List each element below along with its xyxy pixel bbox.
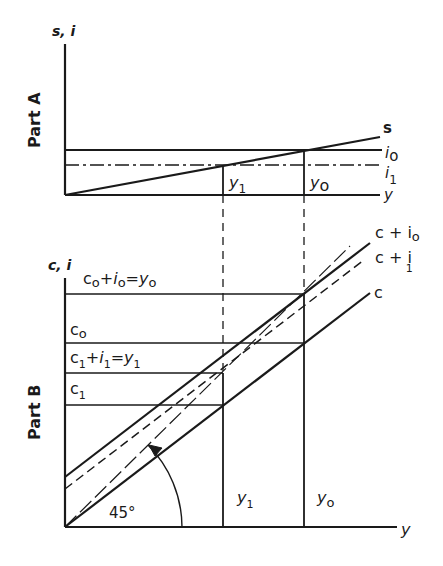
part-b-y-axis-label: c, i	[48, 257, 71, 273]
c-curve-label: c	[374, 283, 383, 302]
part-b-x-axis-label: y	[400, 520, 411, 539]
part-a-x-axis-label: y	[383, 186, 394, 204]
part-a-y0-label: yo	[309, 173, 329, 195]
part-b-y0-label: yo	[316, 488, 334, 510]
part-b-y1-label: y1	[236, 488, 253, 511]
c-plus-i0-curve-label: c + io	[375, 223, 420, 244]
part-a-y1-label: y1	[228, 173, 246, 196]
angle-label: 45°	[109, 504, 136, 522]
c0-label: co	[70, 320, 87, 341]
c-plus-i1-curve-label: c + i1	[375, 248, 413, 275]
c1-plus-i1-equals-y1-label: c1+i1=y1	[70, 348, 141, 371]
i0-curve-label: io	[385, 144, 398, 165]
s-curve-label: s	[383, 119, 392, 137]
part-a-y-axis-label: s, i	[52, 23, 76, 39]
forty-five-degree-line	[65, 246, 350, 527]
i1-curve-label: i1	[385, 164, 397, 187]
part-a-panel	[65, 44, 382, 195]
part-b-label: Part B	[25, 385, 44, 440]
part-a-label: Part A	[25, 92, 44, 148]
c0-plus-i0-equals-y0-label: co+io=yo	[83, 269, 156, 290]
angle-arc	[148, 445, 182, 527]
income-determination-diagram: Part A s, i s io i1 y y1 yo Part B c, i …	[0, 0, 443, 566]
c1-label: c1	[70, 379, 86, 402]
